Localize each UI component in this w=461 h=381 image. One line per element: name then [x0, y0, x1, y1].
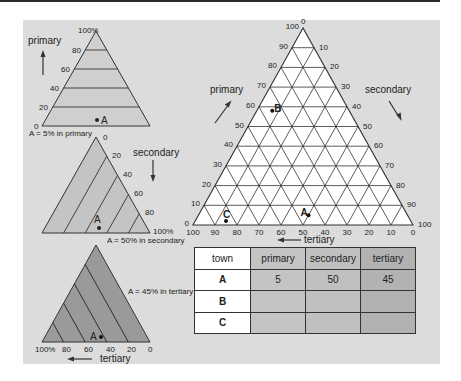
tick-label: 80 [396, 181, 405, 190]
cell-town: C [195, 312, 251, 334]
tick-label: 20 [112, 151, 121, 160]
cell-secondary[interactable] [306, 312, 361, 334]
tick-label: 100 [286, 22, 300, 31]
tick-label: 100 [418, 220, 432, 229]
point-b-label: B [274, 103, 281, 114]
tick-label: 0 [148, 345, 153, 354]
tertiary-axis-ticks: 1009080706050403020100 [186, 228, 415, 237]
primary-caption: A = 5% in primary [29, 129, 92, 138]
primary-triangle: 100% 80 60 40 20 0 primary A A = 5% in p… [28, 26, 150, 138]
point-a-dot [99, 335, 103, 339]
tick-label: 30 [213, 160, 222, 169]
arrow-left-icon [277, 238, 301, 243]
cell-tertiary[interactable] [361, 291, 416, 313]
table-row: A 5 50 45 [195, 269, 416, 291]
header-tertiary: tertiary [361, 248, 416, 270]
cell-tertiary: 45 [361, 269, 416, 291]
cell-primary: 5 [251, 269, 306, 291]
cell-tertiary[interactable] [361, 312, 416, 334]
cell-town: B [195, 291, 251, 313]
tick-label: 80 [233, 228, 242, 237]
primary-axis-label: primary [210, 84, 243, 95]
tick-label: 100% [153, 227, 173, 236]
tick-label: 20 [365, 228, 374, 237]
tertiary-triangle: 100% 80 60 40 20 0 tertiary A A = 45% in… [35, 245, 193, 364]
tick-label: 80 [268, 61, 277, 70]
tick-label: 30 [341, 82, 350, 91]
cell-secondary: 50 [306, 269, 361, 291]
tick-label: 70 [255, 228, 264, 237]
tick-label: 20 [39, 103, 48, 112]
arrow-down-icon [151, 160, 156, 182]
tick-label: 0 [185, 219, 190, 228]
tertiary-axis-label: tertiary [304, 234, 335, 245]
tick-label: 40 [224, 140, 233, 149]
tick-label: 90 [407, 200, 416, 209]
point-a-label: A [94, 214, 101, 225]
tick-label: 0 [103, 133, 108, 142]
secondary-axis-label: secondary [133, 147, 179, 158]
tick-label: 80 [62, 345, 71, 354]
tick-label: 40 [50, 84, 59, 93]
table-header-row: town primary secondary tertiary [195, 248, 416, 270]
tick-label: 60 [134, 189, 143, 198]
ternary-diagram: 0102030405060708090100 01020304050607080… [185, 17, 432, 245]
point-a-dot [95, 118, 99, 122]
tick-label: 50 [235, 121, 244, 130]
tick-label: 20 [202, 180, 211, 189]
tick-label: 0 [411, 228, 416, 237]
secondary-triangle: 0 20 40 60 80 100% secondary A A = 50% i… [42, 133, 185, 245]
tick-label: 90 [211, 228, 220, 237]
tick-label: 40 [352, 102, 361, 111]
tertiary-ticks: 100% 80 60 40 20 0 [35, 345, 153, 354]
table-row: C [195, 312, 416, 334]
tick-label: 70 [257, 81, 266, 90]
tick-label: 70 [385, 161, 394, 170]
tick-label: 60 [246, 101, 255, 110]
table-row: B [195, 291, 416, 313]
tertiary-axis-label: tertiary [100, 353, 131, 364]
tick-label: 0 [301, 17, 306, 26]
tick-label: 10 [319, 43, 328, 52]
tick-label: 60 [61, 65, 70, 74]
arrow-down-right-icon [389, 101, 402, 121]
tick-label: 20 [330, 62, 339, 71]
arrow-left-icon [67, 357, 92, 362]
tick-label: 10 [387, 228, 396, 237]
arrow-up-icon [41, 50, 46, 75]
cell-primary[interactable] [251, 291, 306, 313]
primary-axis-label: primary [28, 35, 61, 46]
tick-label: 40 [123, 170, 132, 179]
tertiary-caption: A = 45% in tertiary [128, 287, 193, 296]
town-table: town primary secondary tertiary A 5 50 4… [194, 247, 416, 334]
header-secondary: secondary [306, 248, 361, 270]
tick-label: 80 [145, 208, 154, 217]
cell-town: A [195, 269, 251, 291]
cell-secondary[interactable] [306, 291, 361, 313]
header-town: town [195, 248, 251, 270]
tick-label: 100 [186, 228, 200, 237]
tick-label: 90 [279, 42, 288, 51]
tick-label: 60 [374, 141, 383, 150]
tick-label: 60 [277, 228, 286, 237]
secondary-caption: A = 50% in secondary [107, 236, 185, 245]
arrow-up-right-icon [215, 101, 232, 124]
tick-label: 60 [84, 345, 93, 354]
point-a-label: A [301, 207, 308, 218]
point-a-label: A [90, 331, 97, 342]
tick-label: 100% [35, 345, 55, 354]
point-a-dot [97, 226, 101, 230]
header-primary: primary [251, 248, 306, 270]
cell-primary[interactable] [251, 312, 306, 334]
secondary-axis-label: secondary [365, 84, 411, 95]
tick-label: 10 [191, 199, 200, 208]
point-c-label: C [223, 209, 230, 220]
tick-label: 30 [343, 228, 352, 237]
point-a-label: A [101, 115, 108, 126]
tick-label: 100% [78, 26, 98, 35]
tick-label: 50 [363, 122, 372, 131]
tick-label: 80 [72, 46, 81, 55]
